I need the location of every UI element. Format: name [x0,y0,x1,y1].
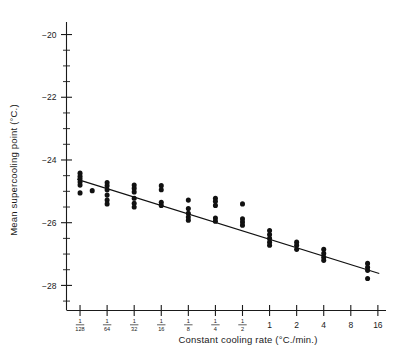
data-point [213,203,218,208]
data-point [78,190,83,195]
fraction-denominator: 4 [214,326,217,332]
x-tick-label: 2 [294,320,299,330]
data-point [186,206,191,211]
data-point [186,218,191,223]
x-tick-label: 8 [348,320,353,330]
x-tick-label: 1 [267,320,272,330]
data-point [240,223,245,228]
y-axis-title: Mean supercooling point (°C.) [8,104,19,236]
fraction-numerator: 1 [78,318,81,324]
fraction-denominator: 128 [75,326,84,332]
fraction-denominator: 32 [131,326,137,332]
fraction-numerator: 1 [187,318,190,324]
fraction-numerator: 1 [160,318,163,324]
data-point [105,201,110,206]
data-point [321,258,326,263]
data-point [105,193,110,198]
x-axis-title: Constant cooling rate (°C./min.) [178,334,317,345]
data-point [267,243,272,248]
chart-background [0,0,403,353]
x-tick-label: 4 [321,320,326,330]
fraction-denominator: 8 [187,326,190,332]
y-tick-label: −20 [42,30,57,40]
fraction-denominator: 64 [104,326,110,332]
data-point [78,182,83,187]
fraction-numerator: 1 [214,318,217,324]
fraction-denominator: 16 [158,326,164,332]
y-tick-label: −22 [42,92,57,102]
y-tick-label: −26 [42,218,57,228]
fraction-numerator: 1 [241,318,244,324]
data-point [132,189,137,194]
y-tick-label: −28 [42,281,57,291]
data-point [132,204,137,209]
fraction-denominator: 2 [241,326,244,332]
data-point [186,198,191,203]
fraction-numerator: 1 [106,318,109,324]
chart-figure: −20−22−24−26−28 112816413211618141212481… [0,0,403,353]
scatter-plot: −20−22−24−26−28 112816413211618141212481… [0,0,403,353]
data-point [90,188,95,193]
x-tick-label: 16 [373,320,383,330]
data-point [159,187,164,192]
fraction-numerator: 1 [133,318,136,324]
data-point [240,201,245,206]
data-point [365,276,370,281]
y-tick-label: −24 [42,155,57,165]
